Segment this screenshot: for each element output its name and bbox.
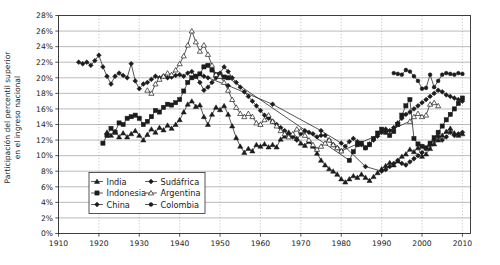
data-point-marker [149,203,153,207]
legend-label: Argentina [161,188,201,198]
data-point-marker [145,119,149,123]
data-point-marker [109,82,114,87]
x-tick-label: 1960 [251,239,270,248]
data-point-marker [209,112,214,116]
data-point-marker [198,72,202,76]
data-point-marker [222,80,227,84]
data-point-marker [262,141,267,145]
data-point-marker [161,105,165,109]
data-point-marker [197,49,202,53]
data-point-marker [181,110,186,114]
data-point-marker [415,111,420,115]
y-tick-label: 26% [36,27,53,36]
data-point-marker [416,142,420,146]
data-point-marker [238,144,243,148]
data-point-marker [101,64,106,69]
data-point-marker [105,133,109,137]
data-point-marker [408,70,412,74]
legend-label: Sudáfrica [161,177,200,187]
data-point-marker [189,99,194,103]
data-point-marker [133,113,137,117]
data-point-marker [201,114,206,118]
data-point-marker [440,124,444,128]
data-point-marker [444,71,448,75]
data-point-marker [133,79,138,84]
legend-label: Indonesia [107,188,147,198]
x-tick-label: 1990 [372,239,391,248]
data-point-marker [141,122,145,126]
data-point-marker [270,142,275,146]
data-point-marker [149,127,154,131]
data-point-marker [412,74,416,78]
data-point-marker [177,61,182,65]
data-point-marker [359,172,364,176]
y-tick-label: 28% [36,11,53,20]
data-point-marker [178,97,182,101]
y-tick-label: 22% [36,58,53,67]
y-tick-label: 16% [36,105,53,114]
data-point-marker [440,73,444,77]
legend-label: China [107,200,130,210]
data-point-marker [404,68,408,72]
data-point-marker [213,105,218,109]
data-point-marker [448,112,452,116]
data-point-marker [432,100,437,104]
y-tick-label: 14% [36,120,53,129]
x-tick-label: 1940 [170,239,189,248]
data-point-marker [177,117,182,121]
y-tick-label: 20% [36,74,53,83]
data-point-marker [125,75,130,80]
data-point-marker [416,79,420,83]
data-point-marker [351,173,356,177]
data-point-marker [145,88,150,92]
data-point-marker [137,116,141,120]
data-point-marker [420,87,424,91]
data-point-marker [109,126,113,130]
y-tick-label: 8% [41,167,53,176]
data-point-marker [461,72,465,76]
data-point-marker [270,102,275,107]
data-point-marker [226,112,231,116]
data-point-marker [186,80,190,84]
data-point-marker [174,101,178,105]
data-point-marker [133,128,138,132]
data-point-marker [400,73,404,77]
data-point-marker [294,127,299,131]
y-axis-ticks [55,16,58,234]
data-point-marker [157,110,161,114]
data-point-marker [125,116,129,120]
data-point-marker [157,125,162,129]
data-point-marker [396,72,400,76]
data-point-marker [205,52,210,56]
data-point-marker [230,124,235,128]
chart-legend: IndiaIndonesiaChinaSudáfricaArgentinaCol… [89,173,205,214]
data-point-marker [182,89,186,93]
x-tick-label: 1920 [89,239,108,248]
data-point-marker [407,147,412,151]
series-layer [76,29,465,184]
y-tick-label: 0% [41,229,53,238]
data-point-marker [129,115,133,119]
data-point-marker [201,43,206,47]
data-point-marker [165,123,170,127]
data-point-marker [388,133,392,137]
data-point-marker [95,191,99,195]
data-point-marker [222,103,227,107]
x-tick-label: 1980 [332,239,351,248]
data-point-marker [234,135,239,139]
data-point-marker [169,103,173,107]
data-point-marker [436,79,440,83]
y-tick-label: 18% [36,89,53,98]
data-point-marker [121,73,126,78]
data-point-marker [234,105,239,109]
series-colombia [392,68,464,90]
data-point-marker [121,131,126,135]
x-tick-label: 1950 [210,239,229,248]
data-point-marker [181,53,186,57]
data-point-marker [420,144,424,148]
data-point-marker [230,97,235,101]
data-point-marker [193,39,198,43]
x-axis-ticks [59,234,463,237]
data-point-marker [444,118,448,122]
data-point-marker [428,73,432,77]
